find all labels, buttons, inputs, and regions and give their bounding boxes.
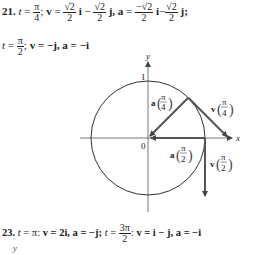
label-v-pi-4: v ( π 4 ) [211, 97, 234, 118]
problem-23-line: 23. t = π: v = 2i, a = −j; t = 3π2: v = … [2, 223, 201, 244]
svg-text:π: π [222, 97, 227, 107]
svg-text:π: π [161, 92, 166, 102]
svg-text:v: v [210, 159, 215, 169]
svg-text:2: 2 [181, 154, 186, 164]
svg-text:): ) [228, 157, 233, 173]
label-v-pi-2: v ( π 2 ) [210, 152, 233, 173]
svg-text:a: a [151, 98, 156, 108]
svg-text:4: 4 [222, 108, 227, 118]
svg-text:v: v [211, 104, 216, 114]
x-axis-label: x [235, 133, 240, 143]
y-tick-1: 1 [141, 72, 146, 82]
svg-text:): ) [188, 148, 193, 164]
label-a-pi-4: a ( π 4 ) [151, 92, 173, 112]
svg-text:): ) [168, 96, 173, 112]
svg-text:π: π [181, 143, 186, 153]
origin-label: 0 [141, 141, 146, 151]
unit-circle-diagram: y x 0 1 a ( π 4 ) v ( π 4 ) a ( π 2 ) v … [0, 0, 259, 255]
label-a-pi-2: a ( π 2 ) [170, 143, 193, 164]
svg-text:4: 4 [161, 102, 166, 112]
svg-text:2: 2 [221, 163, 226, 173]
problem-number: 23. [2, 227, 15, 238]
svg-text:a: a [170, 150, 175, 160]
next-diagram-y-label: y [13, 243, 17, 253]
svg-text:): ) [229, 102, 234, 118]
y-axis-label: y [145, 51, 150, 61]
svg-text:π: π [221, 152, 226, 162]
